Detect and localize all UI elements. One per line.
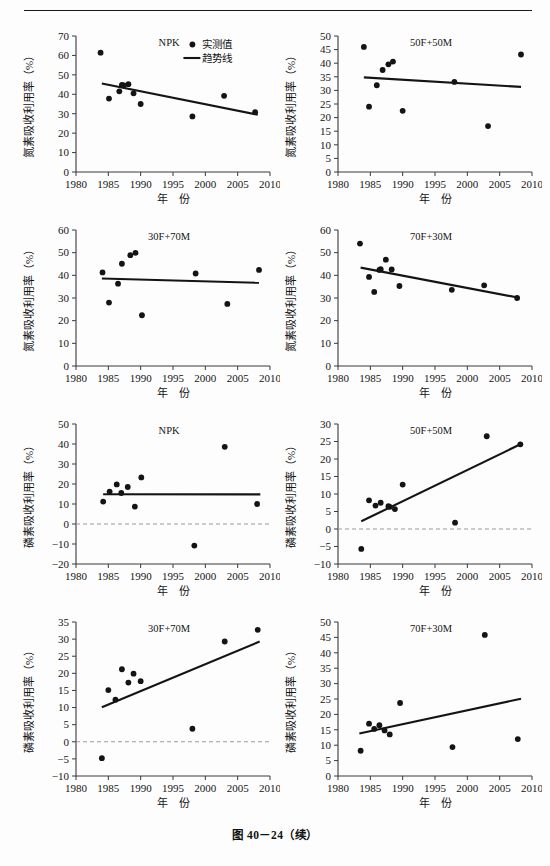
panel-title-p-70f30m: 70F+30M: [410, 623, 453, 634]
x-tick-label: 2010: [259, 782, 280, 794]
y-tick-label: 5: [64, 718, 70, 730]
x-tick-label: 1990: [130, 570, 153, 582]
y-tick-label: 45: [320, 631, 332, 643]
y-tick-label: 50: [58, 246, 70, 258]
x-tick-label: 2000: [456, 782, 479, 794]
y-tick-label: 50: [320, 246, 332, 258]
data-point: [383, 257, 389, 263]
y-tick-label: 10: [58, 337, 70, 349]
y-tick-label: 10: [58, 146, 70, 158]
y-tick-label: −10: [52, 538, 70, 550]
y-tick-label: 10: [58, 701, 70, 713]
y-axis-title: 磷素吸收利用率（%）: [284, 645, 297, 753]
data-point: [193, 271, 199, 277]
data-point: [119, 261, 125, 267]
data-point: [131, 671, 137, 677]
y-tick-label: 30: [58, 108, 70, 120]
y-tick-label: 10: [320, 337, 332, 349]
data-point: [392, 506, 398, 512]
data-point: [100, 499, 106, 505]
trend-line: [102, 279, 259, 283]
panel-title-p-npk: NPK: [159, 425, 180, 436]
data-point: [98, 50, 104, 56]
x-axis-title: 年 份: [419, 192, 452, 205]
y-tick-label: 60: [58, 224, 70, 236]
x-tick-label: 2010: [521, 178, 542, 190]
data-point: [138, 678, 144, 684]
x-tick-label: 1995: [162, 782, 185, 794]
x-axis-title: 年 份: [157, 386, 190, 399]
y-tick-label: −5: [57, 753, 69, 765]
y-tick-label: 30: [320, 418, 332, 430]
y-tick-label: 30: [58, 633, 70, 645]
data-point: [387, 504, 393, 510]
y-axis-title: 氮素吸收利用率（%）: [22, 50, 35, 158]
x-tick-label: 2010: [259, 372, 280, 384]
y-tick-label: 20: [58, 667, 70, 679]
x-tick-label: 1980: [327, 372, 350, 384]
chart-svg-p-30f70m: −10−505101520253035198019851990199520002…: [18, 608, 280, 818]
x-axis-title: 年 份: [419, 796, 452, 809]
data-point: [256, 267, 262, 273]
x-tick-label: 1985: [97, 178, 120, 190]
y-tick-label: 40: [58, 88, 70, 100]
chart-panel-p-npk: −20−100102030405019801985199019952000200…: [18, 410, 280, 606]
chart-panel-n-70f30m: 0102030405060198019851990199520002005201…: [280, 216, 542, 408]
y-tick-label: 30: [320, 677, 332, 689]
data-point: [114, 482, 120, 488]
y-axis-title: 氮素吸收利用率（%）: [284, 50, 297, 158]
data-point: [116, 88, 122, 94]
data-point: [99, 755, 105, 761]
x-axis-title: 年 份: [419, 584, 452, 597]
data-point: [118, 490, 124, 496]
data-point: [484, 433, 490, 439]
data-point: [125, 81, 131, 87]
top-rule-divider: [24, 10, 532, 11]
y-tick-label: 0: [64, 518, 70, 530]
legend-observed-marker: [190, 42, 196, 48]
y-tick-label: 70: [58, 30, 70, 42]
data-point: [366, 721, 372, 727]
y-tick-label: 20: [320, 453, 332, 465]
data-point: [221, 93, 227, 99]
data-point: [132, 504, 138, 510]
panel-title-p-30f70m: 30F+70M: [148, 623, 191, 634]
x-axis-title: 年 份: [157, 796, 190, 809]
x-tick-label: 2005: [489, 570, 512, 582]
data-point: [374, 82, 380, 88]
axis-spines: [76, 36, 270, 172]
data-point: [366, 497, 372, 503]
y-tick-label: 25: [320, 435, 332, 447]
chart-svg-n-50f50m: 0510152025303540455019801985199019952000…: [280, 22, 542, 214]
x-tick-label: 1985: [97, 372, 120, 384]
x-tick-label: 1990: [392, 782, 415, 794]
data-point: [190, 726, 196, 732]
x-tick-label: 2010: [259, 178, 280, 190]
x-tick-label: 1985: [359, 178, 382, 190]
data-point: [131, 90, 137, 96]
axis-spines: [76, 230, 270, 366]
y-tick-label: 40: [320, 57, 332, 69]
x-tick-label: 2000: [456, 570, 479, 582]
chart-svg-p-70f30m: 0510152025303540455019801985199019952000…: [280, 608, 542, 818]
y-tick-label: 30: [58, 458, 70, 470]
data-point: [139, 312, 145, 318]
chart-svg-p-50f50m: −10−505101520253019801985199019952000200…: [280, 410, 542, 606]
y-tick-label: 15: [58, 684, 70, 696]
y-tick-label: 30: [320, 292, 332, 304]
axis-spines: [338, 622, 532, 776]
x-tick-label: 2000: [194, 782, 217, 794]
data-point: [138, 101, 144, 107]
x-tick-label: 1985: [359, 570, 382, 582]
y-tick-label: 50: [58, 69, 70, 81]
panel-title-p-50f50m: 50F+50M: [410, 425, 453, 436]
x-tick-label: 1995: [162, 570, 185, 582]
y-tick-label: −10: [52, 770, 70, 782]
chart-panel-p-30f70m: −10−505101520253035198019851990199520002…: [18, 608, 280, 818]
chart-svg-n-70f30m: 0102030405060198019851990199520002005201…: [280, 216, 542, 408]
data-point: [119, 666, 125, 672]
data-point: [514, 295, 520, 301]
y-tick-label: 20: [320, 314, 332, 326]
x-tick-label: 1985: [359, 372, 382, 384]
data-point: [400, 108, 406, 114]
